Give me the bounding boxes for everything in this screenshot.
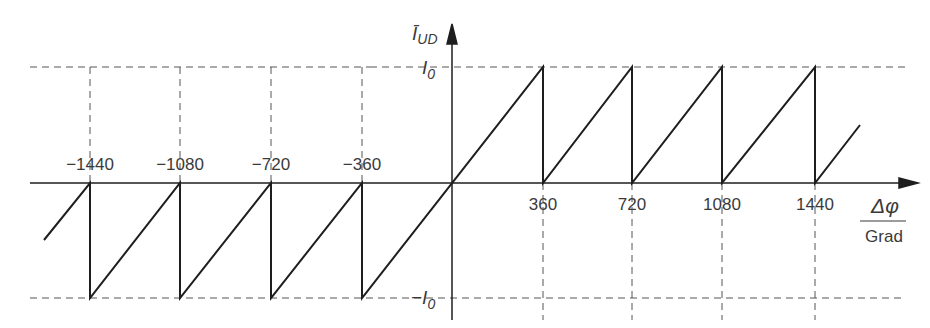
y-axis-label: ĪUD [412,23,438,47]
svg-text:−I0: −I0 [411,287,435,312]
diagram-canvas: −1440 −1080 −720 −360 360 720 1080 1440 … [0,0,930,328]
x-label-numerator: Δφ [870,194,899,217]
tick-neg1080: −1080 [156,155,204,174]
guide-lines [30,67,905,320]
tick-360: 360 [529,195,557,214]
tick-neg720: −720 [252,155,290,174]
minus-i0-label: −I0 [411,287,435,312]
tick-neg360: −360 [343,155,381,174]
svg-text:I0: I0 [422,57,435,82]
tick-1080: 1080 [703,195,741,214]
tick-720: 720 [618,195,646,214]
tick-1440: 1440 [796,195,834,214]
i0-label: I0 [422,57,435,82]
tick-neg1440: −1440 [66,155,114,174]
y-axis-arrow-icon [447,24,457,44]
svg-text:ĪUD: ĪUD [412,23,438,47]
x-axis-arrow-icon [899,178,918,188]
x-label-denominator: Grad [865,227,903,246]
x-axis-label: Δφ Grad [860,194,906,246]
